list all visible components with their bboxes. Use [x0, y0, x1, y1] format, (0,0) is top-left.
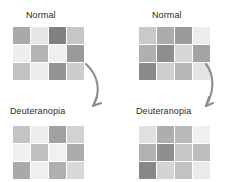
grid-cell	[67, 45, 84, 62]
grid-cell	[13, 45, 30, 62]
grid-cell	[139, 27, 156, 44]
grid-cell	[175, 27, 192, 44]
grid-cell	[31, 126, 48, 143]
grid-cell	[193, 144, 210, 161]
panel-label-bottom-left: Deuteranopia	[10, 106, 65, 117]
grid-cell	[157, 45, 174, 62]
grid-cell	[193, 63, 210, 80]
grid-cell	[13, 63, 30, 80]
grid-cell	[157, 126, 174, 143]
grid-cell	[67, 126, 84, 143]
grid-cell	[49, 63, 66, 80]
grid-cell	[49, 162, 66, 179]
colorblind-simulation-figure: Normal Normal	[0, 0, 234, 182]
grid-cell	[175, 45, 192, 62]
panel-label-top-right: Normal	[152, 10, 182, 21]
color-grid-top-left	[13, 27, 84, 80]
grid-cell	[175, 162, 192, 179]
grid-cell	[49, 45, 66, 62]
color-grid-bottom-left	[13, 126, 84, 179]
grid-cell	[139, 162, 156, 179]
grid-cell	[31, 144, 48, 161]
grid-cell	[193, 27, 210, 44]
panel-label-bottom-right: Deuteranopia	[136, 106, 191, 117]
grid-cell	[13, 27, 30, 44]
grid-cell	[13, 144, 30, 161]
grid-cell	[175, 63, 192, 80]
grid-cell	[49, 126, 66, 143]
grid-cell	[193, 126, 210, 143]
grid-cell	[67, 63, 84, 80]
grid-cell	[13, 162, 30, 179]
grid-cell	[193, 45, 210, 62]
grid-cell	[67, 162, 84, 179]
grid-cell	[139, 63, 156, 80]
arrow-left-head-icon	[93, 97, 101, 106]
grid-cell	[157, 27, 174, 44]
grid-cell	[157, 144, 174, 161]
grid-cell	[67, 27, 84, 44]
color-grid-bottom-right	[139, 126, 210, 179]
arrow-right-head-icon	[206, 97, 213, 106]
grid-cell	[139, 144, 156, 161]
grid-cell	[157, 63, 174, 80]
grid-cell	[139, 45, 156, 62]
grid-cell	[31, 45, 48, 62]
normal-to-deuteranopia-arrow-left	[86, 64, 101, 106]
grid-cell	[31, 162, 48, 179]
grid-cell	[49, 144, 66, 161]
grid-cell	[31, 27, 48, 44]
grid-cell	[157, 162, 174, 179]
color-grid-top-right	[139, 27, 210, 80]
arrow-left-curve	[86, 64, 98, 106]
grid-cell	[175, 144, 192, 161]
grid-cell	[175, 126, 192, 143]
panel-label-top-left: Normal	[26, 10, 56, 21]
grid-cell	[31, 63, 48, 80]
grid-cell	[193, 162, 210, 179]
grid-cell	[67, 144, 84, 161]
grid-cell	[13, 126, 30, 143]
grid-cell	[49, 27, 66, 44]
grid-cell	[139, 126, 156, 143]
